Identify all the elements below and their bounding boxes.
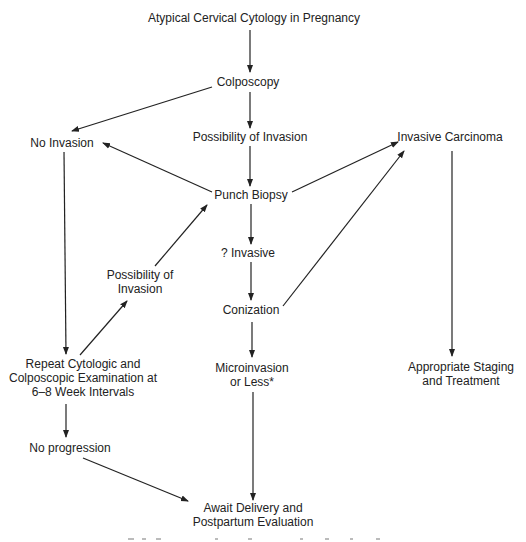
node-invasive-carcinoma: Invasive Carcinoma bbox=[397, 130, 502, 144]
node-conization: Conization bbox=[223, 303, 280, 317]
arrow-punch_biopsy-to-invasive_carcinoma bbox=[292, 142, 398, 192]
arrow-conization-to-invasive_carcinoma bbox=[283, 151, 404, 306]
cut-off-caption-fragment bbox=[0, 538, 526, 542]
node-microinvasion: Microinvasion or Less* bbox=[215, 361, 288, 389]
node-staging-treatment: Appropriate Staging and Treatment bbox=[408, 360, 514, 388]
node-question-invasive: ? Invasive bbox=[221, 246, 275, 260]
node-possibility-of-invasion-center: Possibility of Invasion bbox=[193, 130, 308, 144]
arrow-no_invasion-to-repeat_exam bbox=[64, 152, 66, 354]
node-punch-biopsy: Punch Biopsy bbox=[214, 188, 287, 202]
node-no-progression: No progression bbox=[29, 441, 110, 455]
node-await-delivery: Await Delivery and Postpartum Evaluation bbox=[193, 501, 314, 529]
node-colposcopy: Colposcopy bbox=[217, 75, 280, 89]
node-start: Atypical Cervical Cytology in Pregnancy bbox=[148, 11, 360, 25]
node-possibility-of-invasion-left: Possibility of Invasion bbox=[107, 268, 174, 296]
arrow-punch_biopsy-to-no_invasion bbox=[103, 143, 212, 192]
node-no-invasion: No Invasion bbox=[30, 136, 93, 150]
node-repeat-exam: Repeat Cytologic and Colposcopic Examina… bbox=[9, 357, 157, 399]
edge-group bbox=[64, 30, 452, 501]
arrow-no_progression-to-await_delivery bbox=[83, 458, 188, 501]
arrow-repeat_exam-to-possibility_invasion_left bbox=[80, 301, 127, 355]
flowchart-canvas: Atypical Cervical Cytology in Pregnancy … bbox=[0, 0, 526, 542]
arrow-colposcopy-to-no_invasion bbox=[72, 87, 212, 131]
arrow-possibility_invasion_left-to-punch_biopsy bbox=[155, 205, 207, 266]
